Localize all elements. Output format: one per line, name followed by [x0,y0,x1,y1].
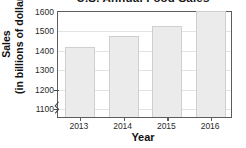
bar-2016 [196,11,226,117]
bar-2015 [152,26,182,117]
chart-title: U.S. Annual Food Sales [52,0,234,4]
y-axis-tick-mark [54,90,59,91]
y-axis-tick-label: 1300 [24,66,54,75]
bar-chart-figure: U.S. Annual Food Sales Sales (in billion… [0,0,246,148]
x-axis-tick-label-2015: 2015 [144,121,188,131]
axis-break-icon [54,101,63,114]
bar-2013 [65,47,95,117]
bar-2014 [109,36,139,117]
y-axis-tick-label: 1600 [24,8,54,17]
y-axis-tick-label: 1100 [24,105,54,114]
x-axis-tick-label-2014: 2014 [101,121,145,131]
x-axis-title: Year [52,131,234,143]
x-axis-tick-label-2016: 2016 [188,121,232,131]
y-axis-title-line1: Sales [0,0,13,94]
y-axis-tick-label: 1400 [24,47,54,56]
x-axis-tick-label-2013: 2013 [57,121,101,131]
y-axis-tick-label: 1200 [24,86,54,95]
y-axis-tick-label: 1500 [24,27,54,36]
y-axis-tick-mark [54,109,59,110]
plot-area: 110012001300140015001600 [57,11,232,118]
